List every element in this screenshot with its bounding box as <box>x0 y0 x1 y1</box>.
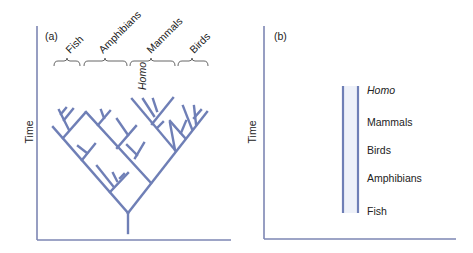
panel-a-label: (a) <box>45 30 58 42</box>
phylogenetic-tree <box>53 98 207 233</box>
brace-fish <box>54 58 80 66</box>
homo-label: Homo <box>136 62 148 90</box>
brace-birds <box>178 58 208 66</box>
ladder-label-homo: Homo <box>367 84 395 96</box>
ladder-band <box>343 86 358 213</box>
panel-b-time-label: Time <box>246 120 258 143</box>
group-label-fish: Fish <box>63 33 86 56</box>
panel-b-label: (b) <box>274 30 287 42</box>
panel-a-time-label: Time <box>23 120 35 143</box>
ladder-label-birds: Birds <box>367 144 391 156</box>
figure: (a) Time Fish Amphibians Mammals Birds H… <box>0 0 473 253</box>
brace-amphibians <box>84 58 127 66</box>
panel-a: (a) Time Fish Amphibians Mammals Birds H… <box>23 8 231 240</box>
group-label-mammals: Mammals <box>144 15 185 56</box>
group-label-birds: Birds <box>187 30 212 55</box>
panel-b: (b) Time Homo Mammals Birds Amphibians F… <box>246 26 456 239</box>
ladder-label-mammals: Mammals <box>367 116 413 128</box>
ladder-label-amphibians: Amphibians <box>367 172 422 184</box>
ladder-label-fish: Fish <box>367 205 387 217</box>
group-label-amphibians: Amphibians <box>96 8 143 55</box>
